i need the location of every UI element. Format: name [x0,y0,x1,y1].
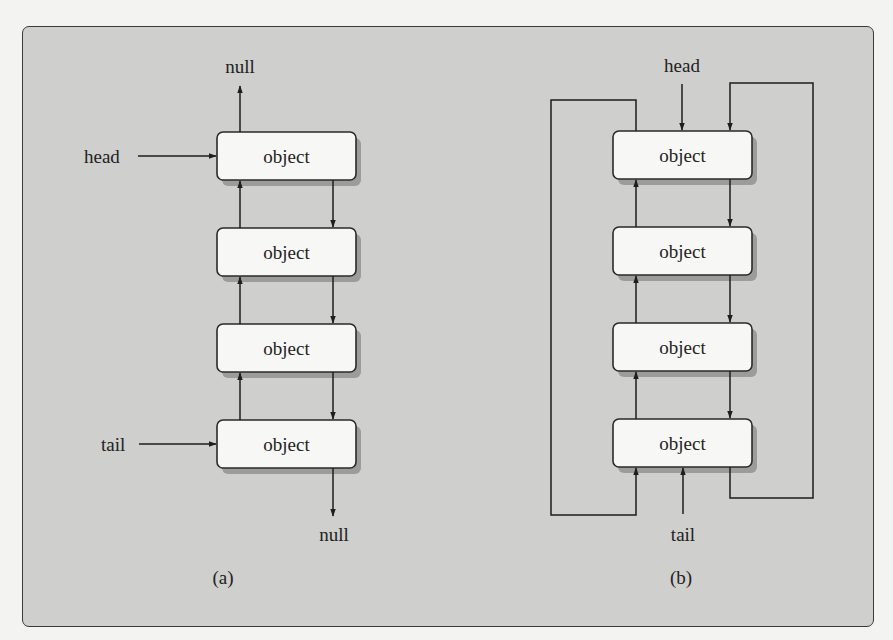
node-b4: object [613,419,752,467]
linked-list-diagram: object object object object head tail nu… [0,0,893,640]
tail-label-b: tail [671,524,695,545]
node-a3: object [217,324,356,372]
caption-b: (b) [670,567,692,589]
tail-label-a: tail [101,434,125,455]
node-label: object [263,434,310,455]
head-label-b: head [664,55,700,76]
node-b3: object [613,323,752,371]
node-label: object [659,145,706,166]
node-a1: object [217,132,356,180]
node-label: object [263,338,310,359]
node-label: object [659,337,706,358]
node-label: object [263,146,310,167]
diagram-a: object object object object head tail nu… [84,56,361,589]
node-a4: object [217,420,356,468]
node-label: object [659,433,706,454]
node-a2: object [217,228,356,276]
node-label: object [263,242,310,263]
head-label-a: head [84,146,120,167]
caption-a: (a) [212,567,233,589]
null-top-label: null [225,56,255,77]
null-bottom-label: null [319,524,349,545]
node-b1: object [613,131,752,179]
node-b2: object [613,227,752,275]
diagram-b: object object object object head tail (b… [551,55,813,589]
node-label: object [659,241,706,262]
